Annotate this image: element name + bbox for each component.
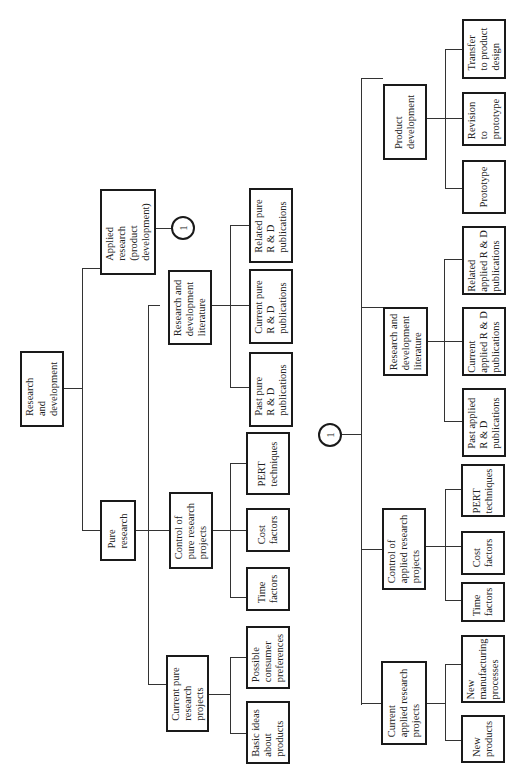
connector-line <box>361 703 383 704</box>
connector-line <box>361 78 362 705</box>
node-new-manufacturing-processes: New manufacturing processes <box>461 635 505 703</box>
node-label: Past pure R & D publications <box>253 364 289 415</box>
node-applied-pert: PERT techniques <box>461 464 505 517</box>
node-label: Revision to prototype <box>466 99 502 139</box>
node-label: Applied research (product development) <box>104 203 152 261</box>
node-label: Current applied R & D publications <box>466 311 502 373</box>
connector-line <box>445 188 462 189</box>
node-pure-pert: PERT techniques <box>246 432 290 495</box>
node-label: New products <box>471 721 495 757</box>
connector-line <box>427 703 445 704</box>
connector-line <box>64 388 83 389</box>
node-label: Related pure R & D publications <box>253 199 289 252</box>
connector-circle-1: 1 <box>171 216 195 240</box>
node-label: Research and development literature <box>172 279 208 335</box>
node-prototype: Prototype <box>462 160 506 214</box>
node-applied-cost: Cost factors <box>461 531 505 575</box>
connector-line <box>445 664 446 741</box>
connector-line <box>230 387 250 388</box>
connector-line <box>148 305 160 306</box>
node-pure-control: Control of pure research projects <box>169 492 213 569</box>
connector-line <box>230 225 231 388</box>
node-research-and-development: Research and development <box>20 351 64 427</box>
node-label: Control of applied research projects <box>386 515 422 584</box>
connector-line <box>82 268 102 269</box>
node-label: Prototype <box>478 167 490 208</box>
node-pure-current-projects: Current pure research projects <box>166 655 209 732</box>
connector-line <box>445 740 461 741</box>
node-label: Research and development literature <box>388 313 424 369</box>
node-label: PERT techniques <box>256 441 280 486</box>
node-pure-past-pubs: Past pure R & D publications <box>249 352 293 427</box>
connector-line <box>230 305 250 306</box>
connector-line <box>427 118 445 119</box>
node-label: Current pure R & D publications <box>253 280 289 333</box>
node-label: Past applied R & D publications <box>466 397 502 448</box>
node-label: Transfer to product design <box>466 28 502 71</box>
node-pure-current-pubs: Current pure R & D publications <box>249 269 293 344</box>
connector-circle-1-detail: 1 <box>318 423 342 447</box>
node-label: Basic ideas about products <box>250 709 286 757</box>
node-new-products: New products <box>461 715 505 763</box>
connector-line <box>209 694 230 695</box>
connector-line <box>230 733 246 734</box>
connector-line <box>156 228 172 229</box>
connector-line <box>148 530 170 531</box>
node-pure-cost: Cost factors <box>246 508 290 552</box>
connector-line <box>445 489 446 601</box>
connector-line <box>445 49 446 189</box>
node-label: Possible consumer preferences <box>250 633 286 681</box>
node-applied-time: Time factors <box>461 582 505 622</box>
node-applied-past-pubs: Past applied R & D publications <box>462 388 506 457</box>
connector-line <box>426 546 445 547</box>
node-label: New manufacturing processes <box>465 638 501 699</box>
node-applied-current-projects: Current applied research projects <box>381 661 427 745</box>
connector-line <box>444 341 462 342</box>
node-pure-basic-ideas: Basic ideas about products <box>246 701 290 764</box>
node-pure-consumer-preferences: Possible consumer preferences <box>246 626 290 689</box>
connector-line <box>445 49 462 50</box>
node-label: PERT techniques <box>471 468 495 513</box>
node-applied-related-pubs: Related applied R & D publications <box>462 226 506 295</box>
connector-line <box>361 549 383 550</box>
node-label: Time factors <box>256 575 280 604</box>
node-applied-current-pubs: Current applied R & D publications <box>462 307 506 376</box>
node-label: Control of pure research projects <box>173 502 209 558</box>
node-label: Current applied research projects <box>386 669 422 738</box>
node-pure-time: Time factors <box>246 567 290 611</box>
connector-line <box>445 600 461 601</box>
node-revision-to-prototype: Revision to prototype <box>462 92 506 146</box>
node-label: Cost factors <box>471 539 495 568</box>
connector-line <box>212 305 230 306</box>
node-label: Pure research <box>106 513 130 548</box>
connector-line <box>230 530 246 531</box>
node-applied-research: Applied research (product development) <box>100 189 156 275</box>
connector-line <box>82 530 102 531</box>
connector-line <box>230 657 246 658</box>
connector-line <box>82 268 83 531</box>
node-label: Time factors <box>471 588 495 617</box>
connector-line <box>445 489 461 490</box>
connector-line <box>445 546 461 547</box>
connector-line <box>342 434 361 435</box>
connector-line <box>230 225 250 226</box>
connector-line <box>230 597 246 598</box>
node-label: Product development <box>393 95 417 149</box>
node-label: Current pure research projects <box>170 667 206 720</box>
node-transfer-to-product-design: Transfer to product design <box>462 19 506 79</box>
connector-line <box>445 664 461 665</box>
connector-line <box>444 259 462 260</box>
node-label: Research and development <box>24 362 60 416</box>
node-pure-research: Pure research <box>100 500 136 561</box>
node-pure-related-pubs: Related pure R & D publications <box>249 188 293 263</box>
connector-line <box>361 78 383 79</box>
node-applied-rd-literature: Research and development literature <box>383 307 428 376</box>
node-product-development: Product development <box>383 84 427 160</box>
node-label: Cost factors <box>256 516 280 545</box>
connector-line <box>445 118 462 119</box>
node-pure-rd-literature: Research and development literature <box>168 270 212 345</box>
connector-line <box>361 307 383 308</box>
connector-line <box>230 463 246 464</box>
connector-line <box>230 657 231 734</box>
connector-line <box>136 530 148 531</box>
